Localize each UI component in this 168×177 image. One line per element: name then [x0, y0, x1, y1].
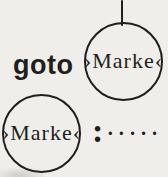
label-definition-label: ›Marke‹: [2, 122, 81, 144]
label-definition-circle: ›Marke‹: [2, 94, 81, 173]
syntax-diagram: ›Marke‹ goto ›Marke‹ : ·····: [0, 0, 168, 177]
goto-operand-label: ›Marke‹: [84, 50, 163, 72]
goto-keyword: goto: [13, 52, 73, 79]
continuation-dots: ·····: [107, 123, 162, 143]
goto-operand-circle: ›Marke‹: [84, 22, 163, 101]
colon-separator: :: [92, 114, 103, 148]
